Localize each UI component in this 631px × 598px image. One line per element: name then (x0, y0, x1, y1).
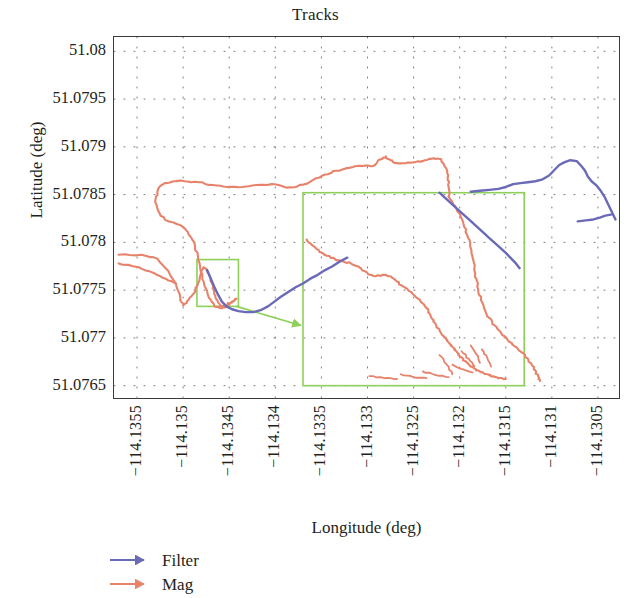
x-tick-label: −114.1355 (127, 405, 145, 476)
series-mag-centre (307, 240, 506, 380)
plot-area (113, 36, 620, 399)
x-tick-label: −114.132 (450, 405, 468, 468)
zoom-box-annotations (197, 193, 524, 386)
series-mag-filament (471, 346, 480, 363)
x-tick-label: −114.135 (173, 405, 191, 468)
series-mag-filament (401, 374, 427, 378)
legend-line-arrow-icon (108, 576, 154, 592)
series-mag-branch-2 (119, 263, 176, 283)
series-mag-filament (423, 371, 449, 377)
series-filter-diagonal (439, 193, 519, 268)
series-filter-lower-right-stub (578, 215, 611, 222)
x-tick-label: −114.134 (265, 405, 283, 468)
chart-figure: Tracks Latitude (deg) Longitude (deg) 51… (0, 0, 631, 598)
x-tick-label: −114.1315 (496, 405, 514, 476)
plot-canvas (114, 37, 621, 400)
legend-item-mag[interactable]: Mag (108, 572, 348, 596)
x-tick-label: −114.131 (542, 405, 560, 468)
x-tick-label: −114.1305 (588, 405, 606, 476)
legend-line-arrow-icon (108, 552, 154, 568)
x-tick-label: −114.1345 (219, 405, 237, 476)
series-filter-top-right (471, 160, 616, 219)
chart-legend: FilterMag (108, 548, 348, 596)
series-mag-filament (482, 349, 491, 366)
x-tick-label: −114.1335 (311, 405, 329, 476)
legend-label: Mag (162, 576, 193, 593)
x-tick-label: −114.133 (358, 405, 376, 468)
legend-label: Filter (162, 552, 199, 569)
grid-lines (114, 37, 621, 400)
x-tick-label: −114.1325 (404, 405, 422, 476)
legend-item-filter[interactable]: Filter (108, 548, 348, 572)
zoom-arrow (236, 306, 301, 325)
series-mag-filament (369, 376, 397, 379)
series-mag-filament (439, 355, 452, 374)
